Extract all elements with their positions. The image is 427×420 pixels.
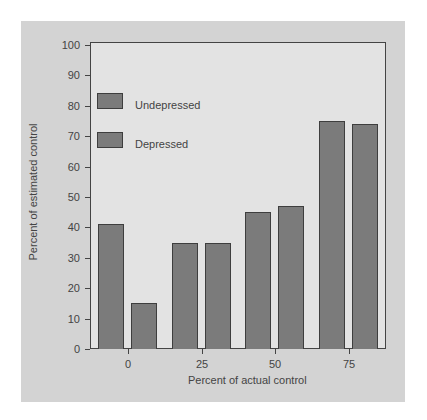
y-tick — [85, 136, 90, 137]
legend-label-undepressed: Undepressed — [135, 99, 200, 111]
x-tick-label: 75 — [334, 358, 364, 370]
y-tick-label: 0 — [50, 343, 80, 355]
y-tick — [85, 227, 90, 228]
y-tick — [85, 167, 90, 168]
bar-undepressed-75 — [319, 121, 345, 349]
y-tick — [85, 319, 90, 320]
bar-undepressed-25 — [172, 243, 198, 349]
bar-undepressed-0 — [98, 224, 124, 349]
bar-undepressed-50 — [245, 212, 271, 349]
x-tick — [349, 349, 350, 354]
bar-depressed-25 — [205, 243, 231, 349]
x-axis-title: Percent of actual control — [188, 374, 307, 386]
y-tick — [85, 288, 90, 289]
y-tick-label: 20 — [50, 282, 80, 294]
y-tick — [85, 258, 90, 259]
bar-depressed-0 — [131, 303, 157, 349]
y-tick-label: 40 — [50, 221, 80, 233]
y-tick — [85, 106, 90, 107]
y-tick-label: 100 — [50, 39, 80, 51]
x-tick-label: 0 — [113, 358, 143, 370]
y-tick — [85, 75, 90, 76]
y-axis-title: Percent of estimated control — [27, 124, 39, 261]
y-tick — [85, 349, 90, 350]
y-tick-label: 50 — [50, 191, 80, 203]
legend-swatch-undepressed — [97, 93, 123, 109]
x-tick — [202, 349, 203, 354]
x-tick-label: 50 — [260, 358, 290, 370]
bar-depressed-75 — [352, 124, 378, 349]
y-tick-label: 30 — [50, 252, 80, 264]
y-tick-label: 60 — [50, 161, 80, 173]
y-tick — [85, 197, 90, 198]
x-tick — [128, 349, 129, 354]
x-tick — [275, 349, 276, 354]
bar-depressed-50 — [278, 206, 304, 349]
y-tick-label: 70 — [50, 130, 80, 142]
legend-label-depressed: Depressed — [135, 138, 188, 150]
legend-swatch-depressed — [97, 132, 123, 148]
y-tick-label: 90 — [50, 69, 80, 81]
y-tick — [85, 45, 90, 46]
y-tick-label: 80 — [50, 100, 80, 112]
x-tick-label: 25 — [187, 358, 217, 370]
y-tick-label: 10 — [50, 313, 80, 325]
